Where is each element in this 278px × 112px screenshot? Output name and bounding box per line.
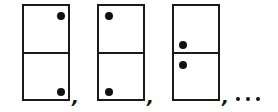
domino-1 xyxy=(22,4,70,101)
domino-3-divider xyxy=(174,52,218,54)
comma-1: , xyxy=(72,88,79,106)
ellipsis-dot-3 xyxy=(256,97,260,101)
domino-1-top-dot xyxy=(57,12,65,20)
domino-3 xyxy=(172,4,220,101)
comma-2: , xyxy=(147,88,154,106)
ellipsis-dot-1 xyxy=(236,97,240,101)
domino-2-divider xyxy=(99,52,143,54)
domino-2-bottom-dot xyxy=(105,88,113,96)
comma-3: , xyxy=(222,88,229,106)
domino-2-top-dot xyxy=(105,12,113,20)
domino-3-bottom-dot xyxy=(179,61,187,69)
ellipsis xyxy=(236,96,260,102)
domino-2 xyxy=(97,4,145,101)
domino-1-divider xyxy=(24,52,68,54)
ellipsis-dot-2 xyxy=(246,97,250,101)
domino-1-bottom-dot xyxy=(57,88,65,96)
domino-3-top-dot xyxy=(179,41,187,49)
